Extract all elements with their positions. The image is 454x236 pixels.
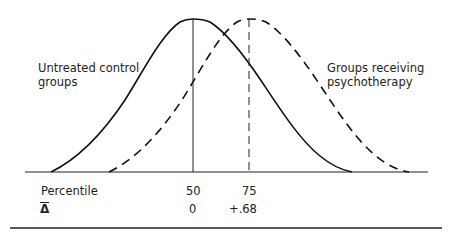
control-label-line1: Untreated control <box>38 61 139 75</box>
delta-row-label: Δ <box>40 202 49 215</box>
percentile-control-value: 50 <box>186 184 201 198</box>
treatment-label-line2: psychotherapy <box>327 75 424 89</box>
treatment-group-label: Groups receiving psychotherapy <box>327 61 424 89</box>
control-label-line2: groups <box>38 75 139 89</box>
delta-treatment-value: +.68 <box>229 202 257 216</box>
percentile-treatment-value: 75 <box>242 184 257 198</box>
distribution-diagram <box>0 0 454 236</box>
treatment-curve <box>109 19 409 172</box>
control-group-label: Untreated control groups <box>38 61 139 89</box>
percentile-row-label: Percentile <box>41 184 98 198</box>
delta-control-value: 0 <box>189 202 196 216</box>
control-curve <box>51 19 352 172</box>
treatment-label-line1: Groups receiving <box>327 61 424 75</box>
